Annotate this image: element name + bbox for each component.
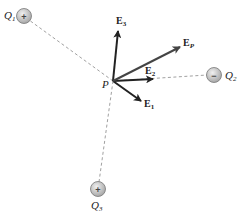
minus-icon: − (211, 71, 216, 81)
charge-q3: + (91, 182, 106, 197)
plus-icon: + (95, 185, 100, 195)
charge-q2: − (207, 68, 222, 83)
electric-field-diagram: + − + Q1 Q2 Q3 P E1 E2 E3 EP (0, 0, 237, 212)
dashed-lines (29, 20, 207, 182)
vector-e2 (113, 79, 153, 81)
label-ep: EP (183, 37, 195, 50)
dashed-line-q1 (29, 20, 113, 81)
vector-e3 (113, 31, 118, 81)
label-e2: E2 (145, 65, 156, 78)
label-e1: E1 (144, 98, 155, 111)
plus-icon: + (21, 12, 26, 22)
label-point-p: P (101, 78, 109, 90)
vector-e1 (113, 81, 141, 101)
label-q3: Q3 (91, 199, 103, 212)
label-q1: Q1 (4, 9, 15, 23)
dashed-line-q3 (99, 81, 113, 182)
charge-q1: + (17, 9, 32, 24)
label-e3: E3 (116, 15, 127, 28)
label-q2: Q2 (225, 69, 237, 83)
